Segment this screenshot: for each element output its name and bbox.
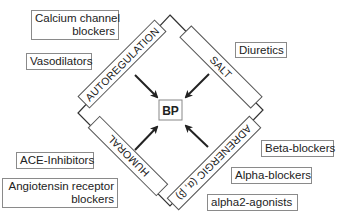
- ace-inhibitors-text: ACE-Inhibitors: [20, 154, 94, 166]
- bp-center-box: BP: [159, 100, 182, 120]
- calcium-channel-blockers-line2: blockers: [35, 25, 115, 38]
- svg-text:BP: BP: [162, 104, 179, 118]
- arb-line1: Angiotensin receptor: [6, 180, 114, 193]
- arrow-salt-icon: [186, 74, 209, 97]
- alpha2-agonists-box: alpha2-agonists: [207, 194, 298, 211]
- beta-blockers-box: Beta-blockers: [261, 140, 334, 157]
- salt-label: SALT: [180, 26, 262, 108]
- beta-blockers-text: Beta-blockers: [265, 142, 335, 154]
- alpha2-agonists-text: alpha2-agonists: [211, 196, 292, 208]
- calcium-channel-blockers-box: Calcium channel blockers: [31, 10, 119, 40]
- arrow-adrenergic-icon: [186, 126, 208, 147]
- diuretics-box: Diuretics: [235, 42, 287, 58]
- vasodilators-text: Vasodilators: [30, 55, 92, 67]
- arb-line2: blockers: [6, 193, 114, 206]
- ace-inhibitors-box: ACE-Inhibitors: [16, 152, 94, 169]
- vasodilators-box: Vasodilators: [26, 53, 92, 70]
- alpha-blockers-text: Alpha-blockers: [235, 169, 311, 181]
- calcium-channel-blockers-line1: Calcium channel: [35, 12, 115, 25]
- diuretics-text: Diuretics: [239, 44, 284, 56]
- alpha-blockers-box: Alpha-blockers: [231, 167, 312, 184]
- angiotensin-receptor-blockers-box: Angiotensin receptor blockers: [2, 178, 118, 208]
- arrow-humoral-icon: [135, 127, 157, 150]
- arrow-autoregulation-icon: [135, 75, 157, 97]
- svg-text:ADRENERGIC (α, β): ADRENERGIC (α, β): [174, 123, 254, 203]
